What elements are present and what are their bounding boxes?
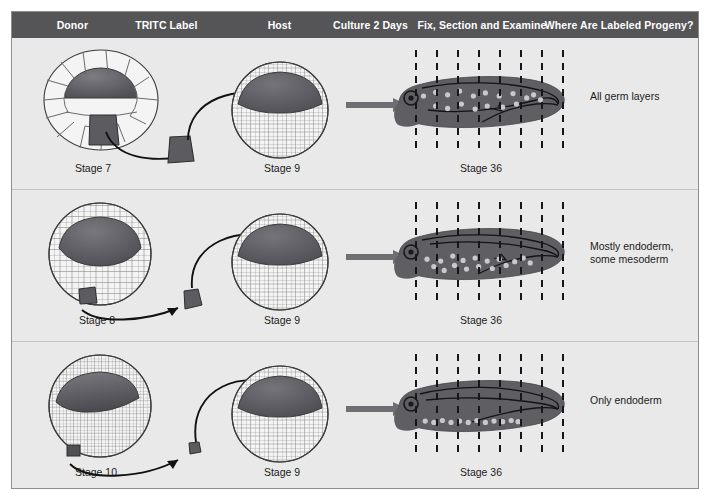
labeled-cell xyxy=(491,419,496,424)
labeled-cell xyxy=(452,263,457,268)
host-embryo-stage-9-row2 xyxy=(228,208,336,316)
labeled-cell xyxy=(528,260,533,265)
result-text-row1: All germ layers xyxy=(590,90,696,103)
rows-container: Stage 7 xyxy=(12,38,698,488)
larva-stage-36-row2 xyxy=(386,200,576,306)
labeled-cell xyxy=(504,263,509,268)
labeled-cell xyxy=(473,107,478,112)
row-stage-7: Stage 7 xyxy=(12,38,698,193)
labeled-cell xyxy=(450,254,455,259)
header-col-tritc: TRITC Label xyxy=(111,12,221,38)
labeled-cell xyxy=(466,420,471,425)
column-header-bar: Donor TRITC Label Host Culture 2 Days Fi… xyxy=(12,12,698,38)
labeled-cell xyxy=(442,268,447,273)
labeled-cell xyxy=(461,258,466,263)
labeled-cell xyxy=(471,93,476,98)
labeled-cell xyxy=(448,420,453,425)
result-text-row2: Mostly endoderm, some mesoderm xyxy=(590,240,702,266)
header-col-progeny: Where Are Labeled Progeny? xyxy=(540,12,698,38)
larva-stage-36-row3 xyxy=(386,352,576,458)
labeled-cell xyxy=(483,420,488,425)
labeled-cell xyxy=(459,102,464,107)
labeled-cell xyxy=(490,266,495,271)
donor-embryo-stage-10 xyxy=(42,352,164,462)
labeled-cell xyxy=(431,420,436,425)
header-col-host: Host xyxy=(232,12,328,38)
larva-stage-caption-2: Stage 36 xyxy=(416,314,546,326)
labeled-cell xyxy=(423,419,428,424)
labeled-cell xyxy=(531,92,536,97)
labeled-cell xyxy=(431,264,436,269)
result-text-row3: Only endoderm xyxy=(590,394,700,407)
host-embryo-stage-9-row3 xyxy=(228,360,336,468)
larva-stage-caption-1: Stage 36 xyxy=(416,162,546,174)
row-stage-10: Stage 10 xyxy=(12,342,698,497)
labeled-cell xyxy=(485,259,490,264)
labeled-cell xyxy=(424,257,429,262)
host-stage-caption-2: Stage 9 xyxy=(228,314,336,326)
labeled-cell xyxy=(438,259,443,264)
larva-stage-36-row1 xyxy=(386,48,576,154)
labeled-cell xyxy=(485,103,490,108)
labeled-cell xyxy=(440,418,445,423)
labeled-cell xyxy=(512,259,517,264)
labeled-cell xyxy=(524,95,529,100)
row-stage-8: Stage 8 xyxy=(12,190,698,345)
larva-stage-caption-3: Stage 36 xyxy=(416,466,546,478)
host-embryo-stage-9-row1 xyxy=(228,56,336,164)
labeled-cell xyxy=(514,102,519,107)
header-col-fix: Fix, Section and Examine xyxy=(413,12,550,38)
labeled-cell xyxy=(510,91,515,96)
labeled-cell xyxy=(516,419,521,424)
host-stage-caption-3: Stage 9 xyxy=(228,466,336,478)
labeled-cell xyxy=(538,97,543,102)
labeled-cell xyxy=(445,106,450,111)
host-stage-caption-1: Stage 9 xyxy=(228,162,336,174)
figure-root: Donor TRITC Label Host Culture 2 Days Fi… xyxy=(0,0,711,500)
labeled-cell xyxy=(464,267,469,272)
labeled-cell xyxy=(421,93,426,98)
labeled-cell xyxy=(483,90,488,95)
header-col-culture: Culture 2 Days xyxy=(317,12,423,38)
labeled-cell xyxy=(445,92,450,97)
figure-panel: Donor TRITC Label Host Culture 2 Days Fi… xyxy=(11,11,699,489)
labeled-cell xyxy=(509,418,514,423)
labeled-cell xyxy=(473,255,478,260)
